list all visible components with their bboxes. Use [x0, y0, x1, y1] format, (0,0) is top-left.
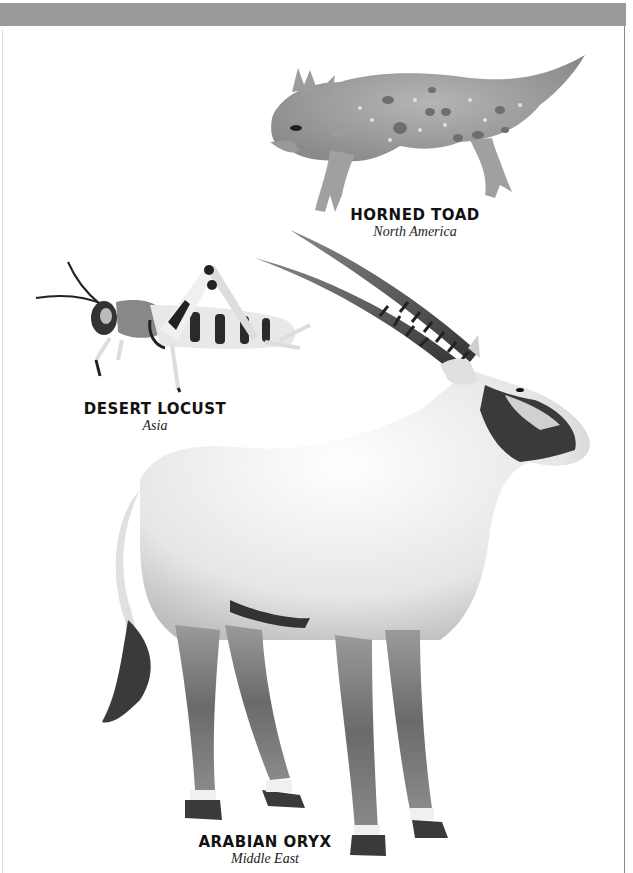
desert-locust-caption: DESERT LOCUST Asia	[80, 401, 230, 433]
arabian-oryx-caption: ARABIAN ORYX Middle East	[190, 834, 340, 866]
horned-toad-caption: HORNED TOAD North America	[340, 207, 490, 239]
desert-locust-illustration	[36, 262, 310, 392]
animal-region: Middle East	[190, 851, 340, 866]
animal-name: ARABIAN ORYX	[190, 834, 340, 851]
animal-name: HORNED TOAD	[340, 207, 490, 224]
animal-name: DESERT LOCUST	[80, 401, 230, 418]
illustrations	[0, 0, 633, 873]
animal-region: Asia	[80, 418, 230, 433]
horned-toad-illustration	[270, 55, 585, 212]
animal-region: North America	[340, 224, 490, 239]
